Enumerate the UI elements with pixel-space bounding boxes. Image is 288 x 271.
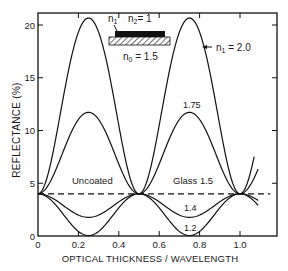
y-tick-label: 5 bbox=[30, 178, 35, 189]
label-1-2: 1.2 bbox=[184, 223, 197, 233]
label-1-75: 1.75 bbox=[183, 100, 201, 110]
label-1-4: 1.4 bbox=[184, 203, 197, 213]
y-tick-label: 15 bbox=[24, 72, 35, 83]
x-tick-label: 0.4 bbox=[112, 239, 125, 250]
label-uncoated: Uncoated bbox=[72, 175, 113, 186]
svg-text:n1: n1 bbox=[108, 13, 118, 25]
x-tick-label: 0 bbox=[35, 239, 40, 250]
reflectance-chart: 00.20.40.60.81.005101520 REFLECTANCE (%)… bbox=[0, 0, 288, 271]
x-tick-label: 0.6 bbox=[153, 239, 166, 250]
x-tick-label: 0.2 bbox=[72, 239, 85, 250]
y-axis-title: REFLECTANCE (%) bbox=[11, 82, 22, 177]
x-axis-title: OPTICAL THICKNESS / WAVELENGTH bbox=[62, 253, 239, 264]
label-n1-2: n1 = 2.0 bbox=[216, 42, 251, 54]
svg-text:n2= 1: n2= 1 bbox=[128, 13, 152, 25]
x-tick-label: 0.8 bbox=[193, 239, 206, 250]
curve-1-2 bbox=[38, 194, 258, 236]
x-tick-label: 1.0 bbox=[233, 239, 246, 250]
inset-diagram: n1 n2= 1 n0 = 1.5 bbox=[108, 13, 170, 63]
y-tick-label: 20 bbox=[24, 20, 35, 31]
y-tick-label: 10 bbox=[24, 125, 35, 136]
svg-text:n0 = 1.5: n0 = 1.5 bbox=[123, 51, 158, 63]
label-glass: Glass 1.5 bbox=[173, 175, 213, 186]
y-tick-label: 0 bbox=[30, 231, 35, 242]
